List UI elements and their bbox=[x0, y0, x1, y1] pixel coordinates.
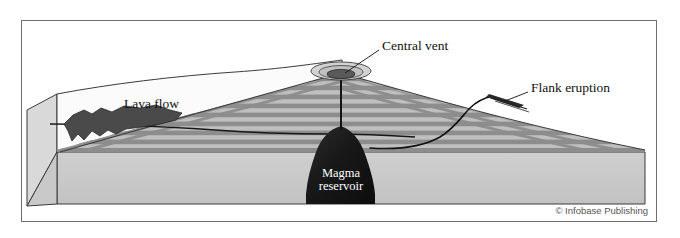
volcano-cross-section-diagram: Central vent Flank eruption Lava flow Ma… bbox=[0, 0, 680, 238]
copyright-credit: © Infobase Publishing bbox=[555, 205, 648, 216]
flank-eruption-vent bbox=[486, 94, 529, 112]
label-magma-reservoir-line1: Magma bbox=[322, 166, 361, 180]
central-vent-crater bbox=[311, 62, 371, 80]
label-central-vent: Central vent bbox=[382, 38, 449, 53]
label-lava-flow: Lava flow bbox=[124, 96, 179, 111]
label-magma-reservoir-line2: reservoir bbox=[319, 179, 364, 193]
figure-root: Central vent Flank eruption Lava flow Ma… bbox=[0, 0, 680, 238]
leader-line-flank-eruption bbox=[505, 92, 528, 101]
label-flank-eruption: Flank eruption bbox=[531, 80, 610, 95]
crater-vent-opening bbox=[327, 69, 355, 78]
